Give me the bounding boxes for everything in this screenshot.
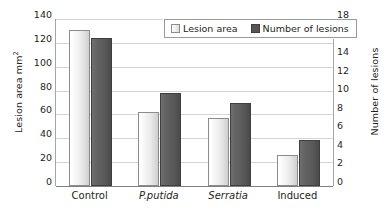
y-axis-right-title: Number of lesions bbox=[369, 22, 380, 162]
y-axis-left-ticks: 140120100806040200 bbox=[26, 14, 52, 186]
bar-group bbox=[264, 19, 333, 186]
bar-chart: Lesion area mm2 Number of lesions 140120… bbox=[0, 0, 392, 215]
bar-group bbox=[125, 19, 194, 186]
y-axis-left-tick: 140 bbox=[26, 10, 52, 20]
legend-entry: Number of lesions bbox=[251, 23, 349, 34]
y-axis-left-tick: 60 bbox=[26, 105, 52, 115]
bar-number-of-lesions bbox=[230, 103, 251, 187]
y-axis-right-tick: 6 bbox=[337, 121, 363, 131]
legend-entry: Lesion area bbox=[171, 23, 238, 34]
bar-lesion-area bbox=[277, 155, 298, 186]
y-axis-right-tick: 8 bbox=[337, 103, 363, 113]
x-axis-label: Serratia bbox=[194, 190, 263, 201]
bar-lesion-area bbox=[208, 118, 229, 186]
y-axis-left-tick: 80 bbox=[26, 82, 52, 92]
bar-group bbox=[56, 19, 125, 186]
bar-lesion-area bbox=[69, 30, 90, 186]
y-axis-left-tick: 100 bbox=[26, 58, 52, 68]
y-axis-right-tick: 12 bbox=[337, 66, 363, 76]
legend-label: Number of lesions bbox=[263, 23, 349, 34]
legend-label: Lesion area bbox=[183, 23, 238, 34]
bar-number-of-lesions bbox=[160, 93, 181, 186]
y-axis-right-tick: 14 bbox=[337, 47, 363, 57]
legend-swatch-icon bbox=[171, 24, 180, 33]
y-axis-right-tick: 0 bbox=[337, 177, 363, 187]
x-axis-label: Control bbox=[55, 190, 124, 201]
x-axis-labels: ControlP.putidaSerratiaInduced bbox=[55, 190, 332, 201]
y-axis-left-tick: 0 bbox=[26, 177, 52, 187]
y-axis-right-tick: 4 bbox=[337, 140, 363, 150]
y-axis-right-ticks: 181614121086420 bbox=[337, 14, 363, 186]
bar-group bbox=[195, 19, 264, 186]
y-axis-right-tick: 10 bbox=[337, 84, 363, 94]
y-axis-left-tick: 40 bbox=[26, 129, 52, 139]
legend-swatch-icon bbox=[251, 24, 260, 33]
plot-area bbox=[55, 19, 334, 186]
bar-lesion-area bbox=[138, 112, 159, 186]
bar-number-of-lesions bbox=[91, 38, 112, 186]
legend: Lesion areaNumber of lesions bbox=[164, 19, 357, 38]
x-axis-label: P.putida bbox=[124, 190, 193, 201]
x-axis-line bbox=[56, 186, 333, 187]
y-axis-left-title-text: Lesion area mm bbox=[13, 55, 24, 133]
y-axis-left-tick: 120 bbox=[26, 34, 52, 44]
x-axis-label: Induced bbox=[263, 190, 332, 201]
y-axis-left-title-superscript: 2 bbox=[12, 51, 20, 55]
y-axis-left-title: Lesion area mm2 bbox=[12, 22, 24, 162]
bar-number-of-lesions bbox=[299, 140, 320, 186]
bar-groups bbox=[56, 19, 333, 186]
y-axis-right-tick: 2 bbox=[337, 158, 363, 168]
y-axis-left-tick: 20 bbox=[26, 153, 52, 163]
